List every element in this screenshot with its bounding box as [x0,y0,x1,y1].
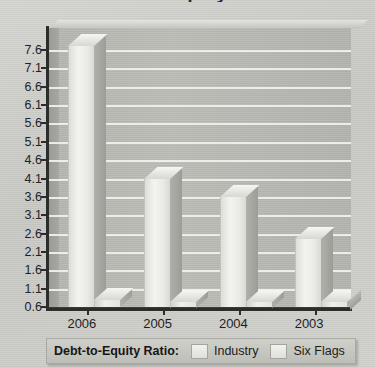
bar-industry-2005[interactable] [144,179,170,308]
y-axis-tick-5.6 [41,122,48,124]
y-axis-tick-6.1 [41,104,48,106]
y-axis-label-1.6: 1.6 [8,264,42,276]
legend-entry-six-flags[interactable]: Six Flags [270,344,344,359]
y-axis-tick-3.1 [41,214,48,216]
bar-six-flags-2006[interactable] [94,300,120,307]
x-axis-label-2006: 2006 [47,316,117,331]
x-axis-label-2005: 2005 [123,316,193,331]
y-axis-label-3.6: 3.6 [8,191,42,203]
x-axis-tick-2006 [87,308,89,315]
bar-face [246,302,273,308]
bar-face [68,46,95,307]
x-axis-tick-2003 [315,308,317,315]
y-axis-tick-1.1 [41,288,48,290]
y-axis-label-1.1: 1.1 [8,283,42,295]
y-axis-label-7.6: 7.6 [8,44,42,56]
legend-swatch-six-flags [270,344,287,359]
y-axis-tick-7.6 [41,49,48,51]
legend-label-six-flags: Six Flags [293,344,344,358]
y-axis-tick-7.1 [41,67,48,69]
legend-title: Debt-to-Equity Ratio: [54,344,179,358]
y-axis-tick-1.6 [41,269,48,271]
y-axis-label-7.1: 7.1 [8,62,42,74]
bar-face [220,197,247,307]
x-axis-line [46,308,352,311]
x-axis-tick-2005 [163,308,165,315]
x-axis-label-2004: 2004 [198,316,268,331]
bar-industry-2004[interactable] [220,197,246,307]
y-axis-label-3.1: 3.1 [8,209,42,221]
bar-chart [0,20,375,316]
y-axis-tick-6.6 [41,86,48,88]
bar-face [170,302,197,308]
y-axis-label-5.6: 5.6 [8,117,42,129]
y-axis-tick-3.6 [41,196,48,198]
x-axis-tick-2004 [239,308,241,315]
y-axis-labels: 7.67.16.66.15.65.14.64.13.63.12.62.11.61… [4,20,42,316]
legend-entry-industry[interactable]: Industry [191,344,258,359]
legend-swatch-industry [191,344,208,359]
y-axis-label-0.6: 0.6 [8,301,42,313]
bar-six-flags-2005[interactable] [170,302,196,308]
bar-six-flags-2004[interactable] [246,302,272,308]
y-axis-tick-2.1 [41,251,48,253]
page-title: Debt-to-Equity Ratio [0,0,375,2]
y-axis-label-4.6: 4.6 [8,154,42,166]
bar-side [170,168,182,307]
y-axis-tick-5.1 [41,141,48,143]
bar-face [94,300,121,307]
y-axis-tick-2.6 [41,233,48,235]
x-axis-label-2003: 2003 [274,316,344,331]
y-axis-label-6.6: 6.6 [8,81,42,93]
chart-legend: Debt-to-Equity Ratio: Industry Six Flags [46,338,356,364]
bar-industry-2003[interactable] [295,239,321,307]
bar-side [246,186,258,307]
legend-label-industry: Industry [214,344,258,358]
y-axis-label-5.1: 5.1 [8,136,42,148]
y-axis-tick-4.6 [41,159,48,161]
y-axis-label-2.1: 2.1 [8,246,42,258]
y-axis-label-6.1: 6.1 [8,99,42,111]
bar-face [295,239,322,307]
y-axis-tick-4.1 [41,178,48,180]
chart-page: Debt-to-Equity Ratio 7.67.16.66.15.65.14… [0,0,375,368]
plot-area [48,28,351,309]
y-axis-label-4.1: 4.1 [8,173,42,185]
bar-face [144,179,171,308]
bar-side [94,36,106,307]
bar-face [321,302,348,307]
y-axis-label-2.6: 2.6 [8,228,42,240]
bar-six-flags-2003[interactable] [321,302,347,307]
bar-industry-2006[interactable] [68,46,94,307]
